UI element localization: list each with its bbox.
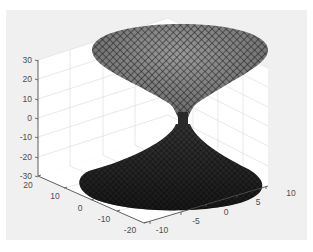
y-tick-label: 20 (23, 180, 33, 190)
y-tick-label: -10 (98, 214, 111, 224)
z-tick-label: 30 (23, 55, 33, 65)
z-tick-label: -10 (20, 132, 33, 142)
y-tick-label: 10 (50, 191, 60, 201)
z-tick-label: 0 (27, 113, 32, 123)
x-tick-label: 0 (224, 207, 229, 217)
x-tick-label: -5 (192, 216, 200, 226)
y-tick-label: 0 (78, 203, 83, 213)
z-tick-label: 10 (23, 94, 33, 104)
x-tick-label: -10 (156, 225, 169, 235)
z-tick-label: 20 (23, 74, 33, 84)
y-tick-label: -20 (124, 225, 137, 235)
x-tick-label: 10 (286, 188, 296, 198)
z-tick-label: -20 (20, 152, 33, 162)
x-tick-label: 5 (256, 197, 261, 207)
surface-plot-figure: 30 20 10 0 -10 -20 -30 20 10 0 -10 -20 -… (0, 0, 313, 252)
